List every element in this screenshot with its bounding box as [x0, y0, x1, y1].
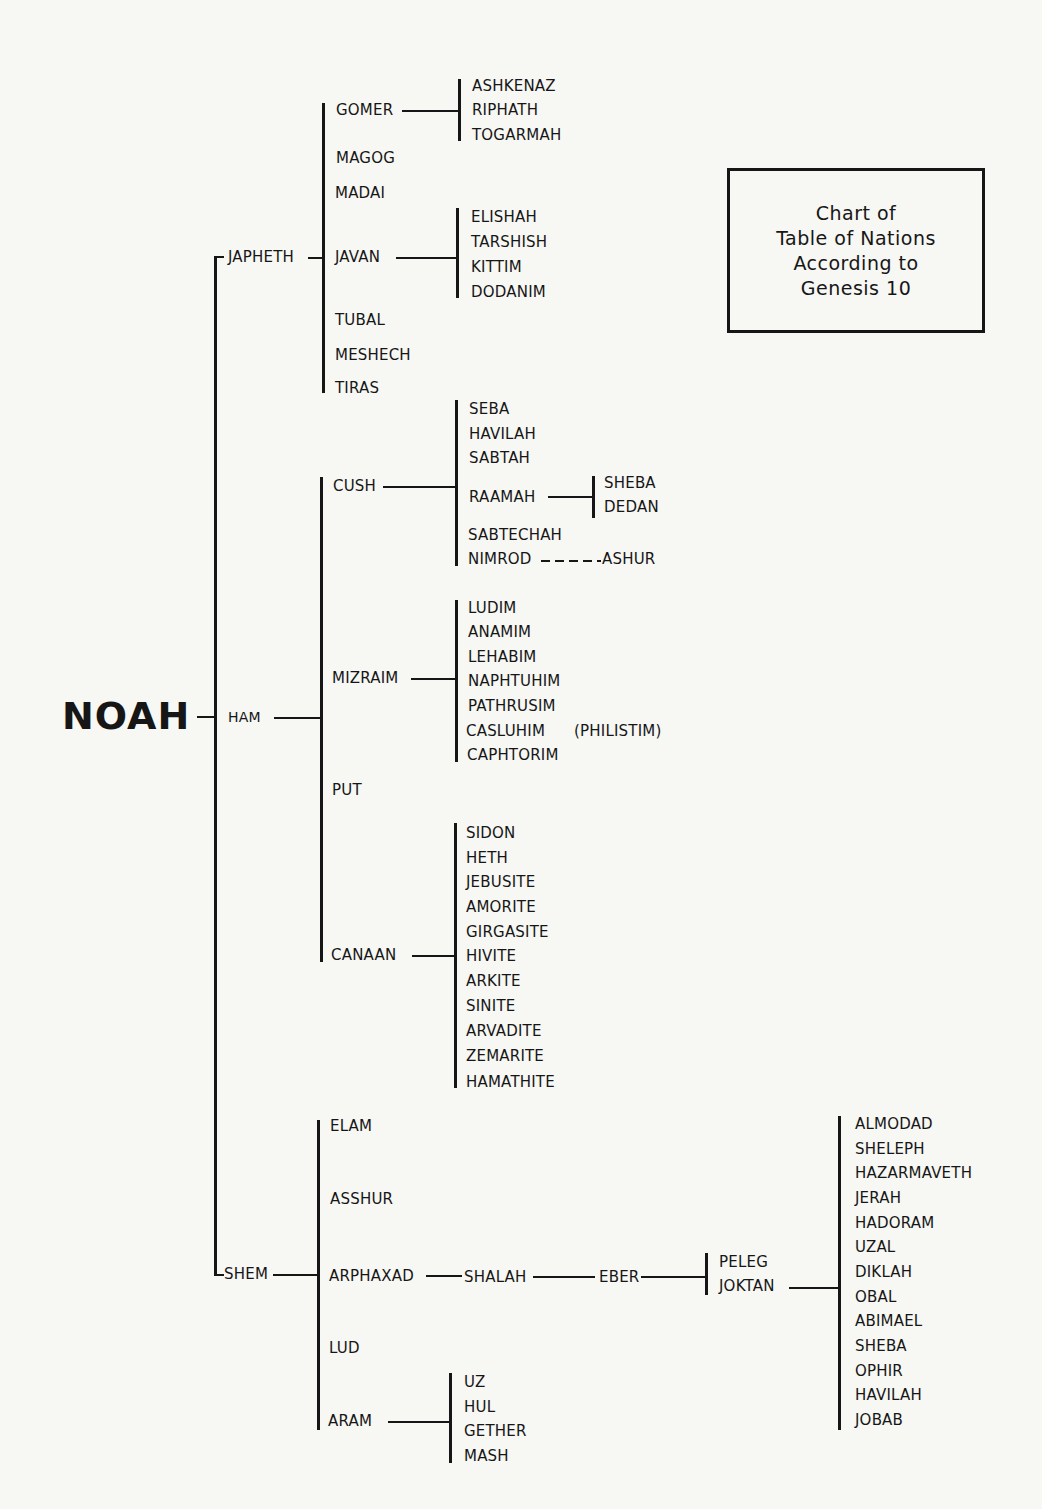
node-ophir: OPHIR — [855, 1362, 903, 1380]
node-sabtechah: SABTECHAH — [468, 526, 562, 544]
node-joktan: JOKTAN — [719, 1277, 775, 1295]
node-hul: HUL — [464, 1398, 495, 1416]
node-uz: UZ — [464, 1373, 485, 1391]
node-sheleph: SHELEPH — [855, 1140, 925, 1158]
tick-shem — [214, 1274, 224, 1276]
node-arvadite: ARVADITE — [466, 1022, 542, 1040]
bar-aram-sons — [449, 1373, 452, 1463]
node-jerah: JERAH — [855, 1189, 901, 1207]
node-magog: MAGOG — [336, 149, 395, 167]
node-heth: HETH — [466, 849, 508, 867]
node-arphaxad: ARPHAXAD — [329, 1267, 414, 1285]
connector-shem — [273, 1274, 319, 1276]
bar-ham-sons — [320, 477, 323, 962]
node-hadoram: HADORAM — [855, 1214, 934, 1232]
node-kittim: KITTIM — [471, 258, 522, 276]
node-ashkenaz: ASHKENAZ — [472, 77, 556, 95]
node-girgasite: GIRGASITE — [466, 923, 549, 941]
bar-japheth-sons — [322, 103, 325, 393]
node-shalah: SHALAH — [464, 1268, 527, 1286]
node-uzal: UZAL — [855, 1238, 895, 1256]
node-riphath: RIPHATH — [472, 101, 538, 119]
bar-mizraim-sons — [455, 600, 458, 762]
node-ashur: ASHUR — [602, 550, 655, 568]
node-noah: NOAH — [62, 694, 190, 738]
node-zemarite: ZEMARITE — [466, 1047, 544, 1065]
node-gether: GETHER — [464, 1422, 527, 1440]
node-sidon: SIDON — [466, 824, 516, 842]
node-ham: HAM — [228, 708, 261, 726]
node-naphtuhim: NAPHTUHIM — [468, 672, 560, 690]
node-canaan: CANAAN — [331, 946, 396, 964]
bar-shem-sons — [317, 1120, 320, 1430]
node-arkite: ARKITE — [466, 972, 521, 990]
node-shem: SHEM — [224, 1265, 268, 1283]
node-put: PUT — [332, 781, 362, 799]
node-seba: SEBA — [469, 400, 509, 418]
node-havilah: HAVILAH — [469, 425, 536, 443]
node-tiras: TIRAS — [335, 379, 379, 397]
chart-title-box: Chart of Table of Nations According to G… — [727, 168, 985, 333]
node-tubal: TUBAL — [335, 311, 385, 329]
node-jebusite: JEBUSITE — [466, 873, 535, 891]
node-asshur: ASSHUR — [330, 1190, 393, 1208]
connector-gomer — [402, 110, 460, 112]
node-abimael: ABIMAEL — [855, 1312, 922, 1330]
connector-aram — [388, 1421, 451, 1423]
node-togarmah: TOGARMAH — [472, 126, 561, 144]
connector-cush — [383, 486, 457, 488]
connector-shalah-eber — [533, 1276, 595, 1278]
bar-javan-sons — [456, 208, 459, 298]
node-nimrod: NIMROD — [468, 550, 532, 568]
node-hivite: HIVITE — [466, 947, 516, 965]
node-tarshish: TARSHISH — [471, 233, 547, 251]
tick-japheth — [214, 256, 224, 258]
node-lud: LUD — [329, 1339, 360, 1357]
node-madai: MADAI — [335, 184, 385, 202]
bar-joktan-sons — [838, 1116, 841, 1430]
connector-japheth — [308, 257, 322, 259]
connector-mizraim — [411, 678, 457, 680]
node-ludim: LUDIM — [468, 599, 517, 617]
dashed-link-nimrod-ashur — [541, 560, 601, 562]
trunk-sons — [214, 256, 217, 1276]
connector-ham — [274, 717, 322, 719]
node-amorite: AMORITE — [466, 898, 536, 916]
connector-arphaxad-shalah — [426, 1275, 462, 1277]
bar-gomer-sons — [458, 79, 461, 141]
title-line-2: Table of Nations — [776, 226, 936, 251]
node-mash: MASH — [464, 1447, 509, 1465]
note-philistim: (PHILISTIM) — [574, 722, 661, 740]
node-caphtorim: CAPHTORIM — [467, 746, 559, 764]
node-pathrusim: PATHRUSIM — [468, 697, 556, 715]
connector-javan — [396, 257, 458, 259]
bar-eber-sons — [705, 1253, 708, 1295]
node-raamah: RAAMAH — [469, 488, 535, 506]
node-dodanim: DODANIM — [471, 283, 546, 301]
node-sheba-joktan: SHEBA — [855, 1337, 907, 1355]
node-javan: JAVAN — [335, 248, 380, 266]
node-hamathite: HAMATHITE — [466, 1073, 555, 1091]
node-meshech: MESHECH — [335, 346, 411, 364]
node-dedan: DEDAN — [604, 498, 659, 516]
node-eber: EBER — [599, 1268, 639, 1286]
node-almodad: ALMODAD — [855, 1115, 933, 1133]
bar-raamah-sons — [592, 476, 595, 518]
node-aram: ARAM — [328, 1412, 372, 1430]
node-obal: OBAL — [855, 1288, 897, 1306]
node-sheba: SHEBA — [604, 474, 656, 492]
node-havilah-joktan: HAVILAH — [855, 1386, 922, 1404]
title-line-3: According to — [793, 251, 918, 276]
node-anamim: ANAMIM — [468, 623, 531, 641]
bar-cush-sons — [455, 400, 458, 566]
connector-canaan — [412, 955, 456, 957]
node-japheth: JAPHETH — [228, 248, 294, 266]
node-hazarmaveth: HAZARMAVETH — [855, 1164, 972, 1182]
node-diklah: DIKLAH — [855, 1263, 912, 1281]
node-peleg: PELEG — [719, 1253, 768, 1271]
node-jobab: JOBAB — [855, 1411, 903, 1429]
node-elishah: ELISHAH — [471, 208, 537, 226]
node-sabtah: SABTAH — [469, 449, 530, 467]
node-mizraim: MIZRAIM — [332, 669, 398, 687]
node-elam: ELAM — [330, 1117, 372, 1135]
